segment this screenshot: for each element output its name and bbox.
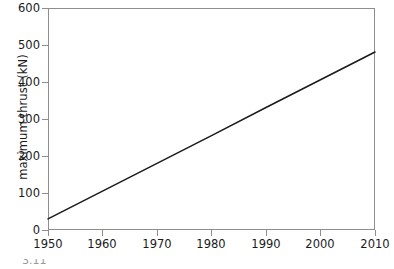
x-tick-mark-2000 bbox=[320, 230, 321, 236]
x-tick-label-2000: 2000 bbox=[300, 238, 340, 251]
y-tick-label-200: 200 bbox=[14, 150, 40, 162]
y-tick-label-400: 400 bbox=[14, 76, 40, 88]
x-tick-mark-1950 bbox=[48, 230, 49, 236]
y-tick-label-500: 500 bbox=[14, 39, 40, 51]
x-tick-label-1970: 1970 bbox=[137, 238, 177, 251]
x-tick-mark-1960 bbox=[102, 230, 103, 236]
x-tick-label-2010: 2010 bbox=[355, 238, 394, 251]
x-tick-label-1980: 1980 bbox=[191, 238, 231, 251]
x-tick-mark-1990 bbox=[266, 230, 267, 236]
y-tick-label-100: 100 bbox=[14, 187, 40, 199]
x-tick-mark-1980 bbox=[211, 230, 212, 236]
y-tick-label-600: 600 bbox=[14, 2, 40, 14]
x-tick-mark-1970 bbox=[157, 230, 158, 236]
figure-caption-text: 3.11 bbox=[22, 259, 142, 267]
y-tick-label-0: 0 bbox=[14, 224, 40, 236]
figure-caption-clipped: 3.11 bbox=[22, 259, 142, 269]
x-tick-mark-2010 bbox=[375, 230, 376, 236]
plot-area bbox=[48, 8, 375, 230]
x-tick-label-1990: 1990 bbox=[246, 238, 286, 251]
x-tick-label-1960: 1960 bbox=[82, 238, 122, 251]
x-tick-label-1950: 1950 bbox=[28, 238, 68, 251]
y-tick-label-300: 300 bbox=[14, 113, 40, 125]
